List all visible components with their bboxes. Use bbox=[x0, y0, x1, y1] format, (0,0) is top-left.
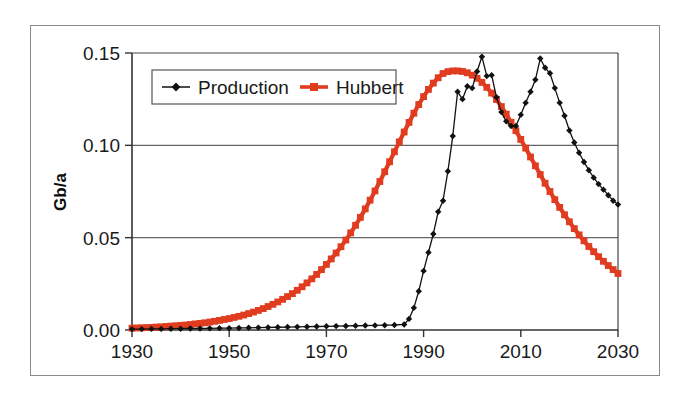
x-tick-label: 1990 bbox=[402, 341, 444, 362]
chart-figure: 0.000.050.100.15 19301950197019902010203… bbox=[0, 0, 685, 394]
chart-legend: ProductionHubbert bbox=[152, 70, 404, 104]
y-tick-label: 0.10 bbox=[83, 135, 120, 156]
data-point-marker bbox=[547, 188, 554, 195]
data-point-marker bbox=[352, 222, 359, 229]
data-point-marker bbox=[517, 136, 524, 143]
data-point-marker bbox=[347, 229, 354, 236]
data-point-marker bbox=[556, 204, 563, 211]
data-point-marker bbox=[396, 138, 403, 145]
data-point-marker bbox=[566, 218, 573, 225]
x-tick-label: 2010 bbox=[500, 341, 542, 362]
data-point-marker bbox=[406, 119, 413, 126]
data-point-marker bbox=[561, 211, 568, 218]
y-tick-label: 0.15 bbox=[83, 43, 120, 64]
chart-plot-svg: 0.000.050.100.15 19301950197019902010203… bbox=[0, 0, 685, 394]
x-axis-ticks: 193019501970199020102030 bbox=[111, 330, 639, 362]
y-tick-label: 0.05 bbox=[83, 228, 120, 249]
data-point-marker bbox=[381, 168, 388, 175]
y-tick-label: 0.00 bbox=[83, 320, 120, 341]
data-point-marker bbox=[420, 93, 427, 100]
data-point-marker bbox=[532, 162, 539, 169]
legend-entries: ProductionHubbert bbox=[162, 77, 404, 98]
data-point-marker bbox=[333, 250, 340, 257]
data-point-marker bbox=[338, 243, 345, 250]
y-axis-title: Gb/a bbox=[51, 173, 70, 211]
data-point-marker bbox=[410, 110, 417, 117]
data-point-marker bbox=[425, 86, 432, 93]
data-point-marker bbox=[367, 197, 374, 204]
legend-label: Hubbert bbox=[336, 77, 404, 98]
legend-label: Production bbox=[198, 77, 289, 98]
data-point-marker bbox=[415, 101, 422, 108]
data-point-marker bbox=[376, 178, 383, 185]
data-point-marker bbox=[527, 154, 534, 161]
data-point-marker bbox=[488, 90, 495, 97]
x-tick-label: 1970 bbox=[305, 341, 347, 362]
x-tick-label: 1950 bbox=[208, 341, 250, 362]
data-point-marker bbox=[391, 148, 398, 155]
data-point-marker bbox=[542, 180, 549, 187]
data-point-marker bbox=[401, 129, 408, 136]
y-axis-ticks: 0.000.050.100.15 bbox=[83, 43, 132, 341]
data-point-marker bbox=[372, 188, 379, 195]
data-point-marker bbox=[551, 196, 558, 203]
data-point-marker bbox=[386, 158, 393, 165]
data-point-marker bbox=[522, 145, 529, 152]
data-point-marker bbox=[571, 225, 578, 232]
data-point-marker bbox=[328, 256, 335, 263]
x-tick-label: 2030 bbox=[597, 341, 639, 362]
data-point-marker bbox=[357, 214, 364, 221]
legend-marker-square bbox=[310, 83, 318, 91]
data-point-marker bbox=[537, 171, 544, 178]
data-point-marker bbox=[576, 231, 583, 238]
x-tick-label: 1930 bbox=[111, 341, 153, 362]
data-point-marker bbox=[615, 270, 622, 277]
data-point-marker bbox=[362, 205, 369, 212]
data-point-marker bbox=[342, 237, 349, 244]
